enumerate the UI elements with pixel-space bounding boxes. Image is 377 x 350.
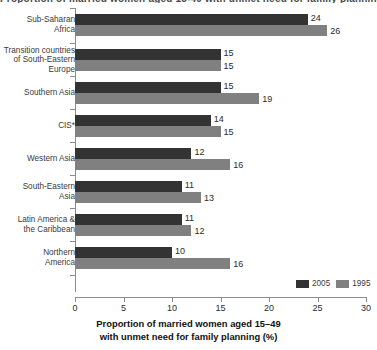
- legend: 20051995: [296, 279, 370, 288]
- bar-2005-6: [75, 214, 182, 225]
- legend-item-1995: 1995: [336, 279, 370, 288]
- bar-value-label: 13: [204, 193, 214, 203]
- bar-value-label: 15: [224, 61, 234, 71]
- y-axis-tick: [70, 175, 75, 176]
- category-label: South-Eastern Asia: [0, 182, 75, 201]
- y-axis-tick: [70, 43, 75, 44]
- x-axis-tick: [221, 297, 222, 302]
- bar-1995-2: [75, 93, 259, 104]
- bar-chart: Proportion of married women aged 15-49 w…: [0, 0, 377, 350]
- bar-1995-0: [75, 25, 327, 36]
- y-axis-tick: [70, 275, 75, 276]
- bar-2005-5: [75, 181, 182, 192]
- legend-item-2005: 2005: [296, 279, 330, 288]
- bar-1995-1: [75, 60, 221, 71]
- bar-2005-4: [75, 148, 191, 159]
- y-axis-tick: [70, 241, 75, 242]
- x-axis-tick-label: 15: [215, 303, 225, 313]
- category-label: Latin America & the Caribbean: [0, 215, 75, 234]
- bar-2005-0: [75, 14, 308, 25]
- bar-value-label: 16: [233, 259, 243, 269]
- plot-area: Sub-Saharan AfricaTransition countries o…: [0, 8, 377, 292]
- x-axis-title-line-2: with unmet need for family planning (%): [0, 330, 377, 343]
- bar-value-label: 10: [175, 246, 185, 256]
- legend-swatch-icon: [336, 280, 349, 288]
- category-label: Southern Asia: [0, 88, 75, 98]
- category-label: Northern America: [0, 248, 75, 267]
- y-axis-tick: [70, 208, 75, 209]
- bar-1995-3: [75, 126, 221, 137]
- bar-value-label: 16: [233, 160, 243, 170]
- bar-value-label: 12: [194, 226, 204, 236]
- bar-2005-7: [75, 247, 172, 258]
- y-axis-tick: [70, 109, 75, 110]
- bar-value-label: 15: [224, 127, 234, 137]
- bar-value-label: 11: [185, 180, 194, 190]
- bar-1995-5: [75, 192, 201, 203]
- y-axis-tick: [70, 142, 75, 143]
- y-axis-tick: [70, 8, 75, 9]
- x-axis-tick-label: 10: [167, 303, 177, 313]
- x-axis-tick-label: 0: [72, 303, 77, 313]
- x-axis-tick-label: 20: [264, 303, 274, 313]
- bar-value-label: 24: [311, 13, 321, 23]
- chart-title: Proportion of married women aged 15-49 w…: [0, 0, 377, 3]
- x-axis-tick: [124, 297, 125, 302]
- bar-value-label: 12: [194, 147, 204, 157]
- legend-label: 2005: [312, 279, 330, 288]
- bar-1995-6: [75, 225, 191, 236]
- x-axis-tick-label: 30: [361, 303, 371, 313]
- x-axis: 051015202530 Proportion of married women…: [0, 297, 377, 350]
- x-axis-tick: [269, 297, 270, 302]
- bar-value-label: 19: [262, 94, 272, 104]
- bar-value-label: 15: [224, 48, 234, 58]
- bar-value-label: 26: [330, 26, 340, 36]
- y-axis-tick: [70, 76, 75, 77]
- x-axis-title-line-1: Proportion of married women aged 15–49: [0, 317, 377, 330]
- x-axis-tick: [172, 297, 173, 302]
- x-axis-tick: [318, 297, 319, 302]
- legend-swatch-icon: [296, 280, 309, 288]
- bar-2005-1: [75, 49, 221, 60]
- category-label: CIS*: [0, 121, 75, 131]
- x-axis-tick: [75, 297, 76, 302]
- bar-2005-3: [75, 115, 211, 126]
- bar-1995-7: [75, 258, 230, 269]
- bar-2005-2: [75, 82, 221, 93]
- bar-value-label: 14: [214, 114, 224, 124]
- x-axis-tick: [366, 297, 367, 302]
- bar-value-label: 15: [224, 81, 234, 91]
- x-axis-tick-label: 25: [312, 303, 322, 313]
- x-axis-title: Proportion of married women aged 15–49 w…: [0, 317, 377, 343]
- x-axis-tick-label: 5: [121, 303, 126, 313]
- legend-label: 1995: [352, 279, 370, 288]
- bar-1995-4: [75, 159, 230, 170]
- bar-value-label: 11: [185, 213, 194, 223]
- category-label: Western Asia: [0, 154, 75, 164]
- category-label: Sub-Saharan Africa: [0, 15, 75, 34]
- category-label: Transition countries of South-Eastern Eu…: [0, 46, 75, 75]
